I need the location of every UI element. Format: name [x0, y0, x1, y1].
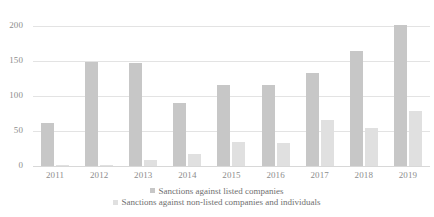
bar-series-2-2018: [365, 128, 378, 167]
bar-series-1-2018: [350, 51, 363, 167]
x-axis-tick-label-2016: 2016: [254, 168, 298, 182]
x-axis-tick-label-2018: 2018: [342, 168, 386, 182]
bar-series-2-2017: [321, 120, 334, 166]
bar-series-1-2019: [394, 25, 407, 166]
bar-series-1-2017: [306, 73, 319, 166]
bar-series-2-2011: [56, 165, 69, 166]
bar-series-2-2015: [232, 142, 245, 167]
legend-swatch-icon: [150, 188, 155, 193]
x-axis-tick-label-2014: 2014: [165, 168, 209, 182]
y-axis-tick-label: 200: [0, 21, 23, 30]
bar-group-2014: [165, 0, 209, 166]
gridline-0: [33, 166, 430, 167]
y-axis-tick-label: 50: [0, 126, 23, 135]
legend-swatch-icon: [113, 200, 118, 205]
y-axis-tick-label: 100: [0, 91, 23, 100]
bar-series-2-2012: [100, 165, 113, 166]
plot-area: 050100150200250: [33, 0, 430, 166]
legend-label-series-2: Sanctions against non-listed companies a…: [121, 198, 320, 208]
bar-group-2011: [33, 0, 77, 166]
x-axis-tick-label-2015: 2015: [209, 168, 253, 182]
bar-series-1-2013: [129, 63, 142, 166]
bar-series-2-2016: [277, 143, 290, 166]
legend-item-series-2: Sanctions against non-listed companies a…: [0, 197, 434, 208]
bar-group-2012: [77, 0, 121, 166]
bar-group-2018: [342, 0, 386, 166]
legend-label-series-1: Sanctions against listed companies: [158, 186, 283, 196]
x-axis-tick-label-2019: 2019: [386, 168, 430, 182]
x-axis-tick-label-2013: 2013: [121, 168, 165, 182]
bar-series-1-2011: [41, 123, 54, 166]
bar-group-2016: [254, 0, 298, 166]
bar-series-2-2013: [144, 160, 157, 166]
legend-item-series-1: Sanctions against listed companies: [0, 186, 434, 197]
x-axis: 201120122013201420152016201720182019: [33, 168, 430, 182]
bar-series-2-2019: [409, 111, 422, 166]
bar-group-2015: [209, 0, 253, 166]
y-axis-tick-label: 150: [0, 56, 23, 65]
bar-series-2-2014: [188, 154, 201, 166]
bar-series-1-2012: [85, 62, 98, 166]
x-axis-tick-label-2012: 2012: [77, 168, 121, 182]
bar-group-2017: [298, 0, 342, 166]
chart-legend: Sanctions against listed companies Sanct…: [0, 186, 434, 209]
bar-series-1-2015: [217, 85, 230, 166]
x-axis-tick-label-2011: 2011: [33, 168, 77, 182]
bar-groups: [33, 0, 430, 166]
bar-series-1-2014: [173, 103, 186, 166]
bar-group-2019: [386, 0, 430, 166]
x-axis-tick-label-2017: 2017: [298, 168, 342, 182]
bar-chart: 050100150200250 201120122013201420152016…: [0, 0, 434, 217]
y-axis-tick-label: 0: [0, 161, 23, 170]
bar-group-2013: [121, 0, 165, 166]
bar-series-1-2016: [262, 85, 275, 166]
